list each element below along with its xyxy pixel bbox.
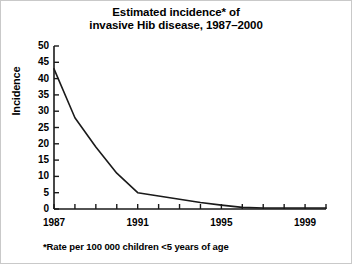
- y-tick-label: 25: [27, 122, 49, 133]
- x-tick-label: 1991: [118, 217, 158, 228]
- chart-footnote: *Rate per 100 000 children <5 years of a…: [43, 241, 229, 252]
- x-tick-label: 1987: [34, 217, 74, 228]
- y-tick-label: 45: [27, 56, 49, 67]
- y-tick-label: 20: [27, 138, 49, 149]
- y-tick-label: 30: [27, 105, 49, 116]
- x-tick-label: 1999: [285, 217, 325, 228]
- y-tick-label: 15: [27, 154, 49, 165]
- y-tick-label: 50: [27, 40, 49, 51]
- x-tick-label: 1995: [201, 217, 241, 228]
- chart-figure: Estimated incidence* of invasive Hib dis…: [0, 0, 352, 264]
- y-tick-label: 40: [27, 73, 49, 84]
- data-series-line: [54, 69, 326, 208]
- y-tick-label: 0: [27, 203, 49, 214]
- y-tick-label: 35: [27, 89, 49, 100]
- y-tick-label: 10: [27, 170, 49, 181]
- axis-lines: [54, 46, 326, 209]
- y-tick-label: 5: [27, 187, 49, 198]
